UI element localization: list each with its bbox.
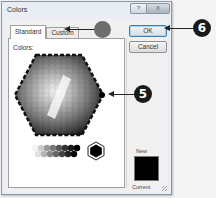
tab-standard[interactable]: Standard	[10, 25, 46, 39]
selected-black-cell	[99, 92, 105, 98]
ok-button[interactable]: OK	[129, 25, 167, 37]
help-button[interactable]: ?	[130, 3, 146, 14]
color-hexagon[interactable]	[13, 53, 105, 137]
callout-badge-custom	[94, 21, 111, 38]
color-preview-swatch	[134, 156, 159, 181]
arrowhead-icon	[164, 25, 170, 31]
callout-arrow-hexagon	[112, 94, 135, 95]
dialog-title: Colors	[7, 6, 27, 13]
colors-label: Colors:	[13, 44, 34, 51]
callout-badge-6: 6	[193, 19, 211, 37]
title-bar-buttons: ? X	[130, 3, 170, 14]
resize-grip-icon[interactable]	[162, 186, 167, 191]
new-label: New	[136, 148, 147, 154]
standard-tab-panel: Colors:	[8, 38, 125, 188]
close-button[interactable]: X	[146, 3, 170, 14]
separator	[126, 38, 127, 188]
title-bar[interactable]: Colors ? X	[2, 2, 171, 18]
selected-color-hex[interactable]	[87, 141, 105, 161]
arrowhead-icon	[108, 91, 114, 97]
grayscale-strip[interactable]	[31, 143, 87, 159]
arrowhead-icon	[64, 26, 70, 32]
callout-arrow-ok	[168, 28, 194, 29]
callout-arrow-custom	[68, 29, 95, 30]
cancel-button[interactable]: Cancel	[129, 41, 167, 53]
current-label: Current	[132, 184, 150, 190]
dialog-client-area: Standard Custom Colors:	[5, 18, 168, 192]
callout-badge-5: 5	[134, 85, 152, 103]
